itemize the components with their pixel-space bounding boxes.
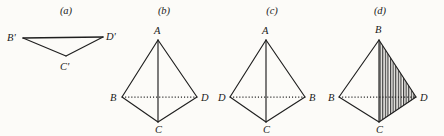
panel-b-vertex-label-a: A — [153, 25, 161, 36]
panel-d: (d) B B D C — [328, 5, 428, 135]
panel-c-vertex-label-a: A — [261, 25, 269, 36]
panel-d-vertex-label-c: C — [376, 124, 384, 135]
panel-b-edge-d-c — [158, 97, 197, 122]
panel-a-edge-bprime-cprime — [23, 38, 66, 56]
panel-c-vertex-label-c: C — [263, 124, 271, 135]
panel-d-edge-bleft-c — [339, 97, 379, 122]
panel-c-edge-d-c — [230, 97, 266, 122]
panel-a-edge-cprime-dprime — [66, 37, 103, 56]
panel-a: (a) B' D' C' — [7, 5, 117, 72]
panel-b-edge-a-d — [158, 40, 197, 97]
panel-b-edge-a-b — [122, 40, 158, 97]
panel-d-vertex-label-b-left: B — [328, 92, 335, 103]
panel-d-edge-bapex-bleft — [339, 40, 379, 97]
panel-c-caption: (c) — [266, 5, 278, 17]
panel-b-vertex-label-b: B — [110, 92, 117, 103]
panel-d-vertex-label-b-apex: B — [375, 24, 382, 35]
panel-b-edge-b-c — [122, 97, 158, 122]
panel-c-vertex-label-b: B — [309, 92, 316, 103]
panel-a-vertex-label-dprime: D' — [105, 31, 117, 42]
panel-a-vertex-label-bprime: B' — [7, 32, 16, 43]
panel-b-vertex-label-c: C — [155, 124, 163, 135]
panel-b-vertex-label-d: D — [200, 92, 209, 103]
panel-d-caption: (d) — [374, 5, 387, 17]
panel-c-edge-a-b — [266, 40, 305, 97]
panel-a-edge-bprime-dprime — [23, 37, 103, 38]
panel-c: (c) A D B C — [217, 5, 316, 135]
tetrahedron-figure-svg: (a) B' D' C' (b) A B D C (c) — [0, 0, 444, 136]
panel-d-vertex-label-d: D — [419, 92, 428, 103]
panel-b: (b) A B D C — [110, 5, 209, 135]
panel-c-edge-b-c — [266, 97, 305, 122]
panel-b-caption: (b) — [158, 5, 171, 17]
figure-root: (a) B' D' C' (b) A B D C (c) — [0, 0, 444, 136]
panel-c-edge-a-d — [230, 40, 266, 97]
panel-c-vertex-label-d: D — [217, 92, 226, 103]
panel-a-vertex-label-cprime: C' — [60, 61, 70, 72]
panel-a-caption: (a) — [60, 5, 73, 17]
